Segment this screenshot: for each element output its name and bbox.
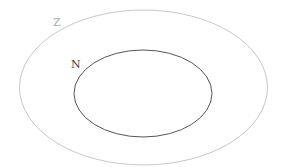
set-n-ellipse xyxy=(74,50,212,137)
set-z-ellipse xyxy=(20,10,268,165)
set-z-label: Z xyxy=(53,16,61,29)
nested-sets-diagram: Z N xyxy=(0,0,286,167)
set-n-label: N xyxy=(71,58,81,71)
